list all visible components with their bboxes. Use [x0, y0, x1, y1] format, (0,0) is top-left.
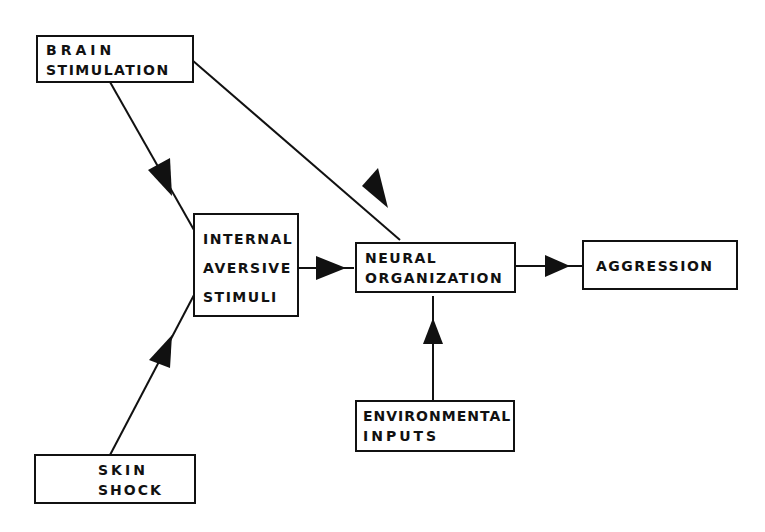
edge-skin-to-internal: [110, 295, 194, 455]
node-aggression: AGGRESSION: [582, 240, 738, 290]
node-brain-stimulation: BRAIN STIMULATION: [36, 35, 194, 83]
node-label-line: STIMULATION: [46, 60, 184, 80]
arrowhead-skin-to-internal: [149, 335, 172, 368]
node-label-line: SHOCK: [98, 480, 194, 500]
node-label-line: ENVIRONMENTAL: [363, 406, 507, 426]
node-label-line: ORGANIZATION: [365, 268, 506, 288]
node-label-line: AGGRESSION: [596, 256, 724, 276]
node-label-line: NEURAL: [365, 248, 506, 268]
node-label-line: STIMULI: [203, 283, 289, 312]
node-label-line: SKIN: [98, 460, 194, 480]
node-environmental-inputs: ENVIRONMENTAL INPUTS: [355, 400, 515, 452]
node-neural-organization: NEURAL ORGANIZATION: [355, 242, 516, 293]
node-internal-aversive-stimuli: INTERNAL AVERSIVE STIMULI: [193, 213, 299, 317]
node-label-line: BRAIN: [46, 40, 184, 60]
arrowhead-brain-to-internal: [148, 158, 172, 196]
arrowhead-brain-to-neural: [362, 168, 388, 208]
edge-brain-to-internal: [110, 82, 194, 230]
arrowhead-environmental-to-neural: [423, 318, 443, 344]
arrowhead-internal-to-neural: [316, 256, 346, 280]
node-skin-shock: SKIN SHOCK: [34, 454, 196, 504]
node-label-line: AVERSIVE: [203, 254, 289, 283]
node-label-line: INPUTS: [363, 426, 507, 446]
arrowhead-neural-to-aggression: [545, 255, 570, 277]
node-label-line: INTERNAL: [203, 225, 289, 254]
